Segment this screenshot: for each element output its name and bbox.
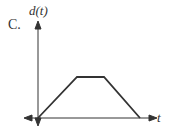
y-axis-down-arrow <box>35 118 41 126</box>
x-axis-right-arrow <box>149 115 157 121</box>
graph <box>0 0 170 135</box>
y-axis-up-arrow <box>35 21 41 29</box>
trapezoid-curve <box>38 77 140 118</box>
x-axis-left-arrow <box>24 115 32 121</box>
